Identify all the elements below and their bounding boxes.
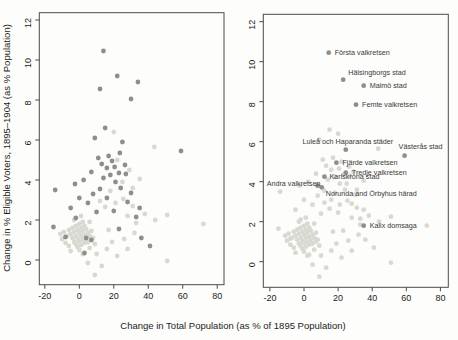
y-tick-label: 4 — [23, 180, 33, 185]
data-point-light — [317, 274, 322, 279]
x-tick-label: 60 — [401, 293, 411, 303]
data-point-light — [314, 230, 319, 235]
data-point-light — [113, 201, 118, 206]
y-tick-label: 6 — [23, 140, 33, 145]
data-point-dark — [117, 171, 122, 176]
data-point-labeled — [402, 153, 407, 158]
data-point-light — [94, 252, 99, 257]
data-point-dark — [99, 162, 104, 167]
data-point-dark — [113, 180, 118, 185]
data-point-dark — [125, 200, 130, 205]
data-point-light — [389, 214, 394, 219]
data-point-light — [312, 247, 317, 252]
data-point-dark — [98, 187, 103, 192]
y-tick-label: 12 — [247, 20, 257, 30]
data-point-light — [331, 155, 336, 160]
data-point-dark — [101, 176, 106, 181]
data-point-light — [121, 197, 126, 202]
data-point-light — [77, 248, 82, 253]
x-axis-title: Change in Total Population (as % of 1895… — [120, 320, 345, 331]
data-point-light — [349, 215, 354, 220]
data-point-dark — [104, 166, 109, 171]
y-tick-label: 0 — [23, 260, 33, 265]
data-point-light — [305, 253, 310, 258]
data-point-light — [324, 265, 329, 270]
data-point-dark — [123, 163, 128, 168]
x-tick-label: 60 — [178, 291, 188, 301]
data-point-dark — [106, 154, 111, 159]
data-point-light — [108, 189, 113, 194]
data-point-light — [317, 243, 322, 248]
data-point-light — [324, 163, 329, 168]
data-point-labeled — [341, 77, 346, 82]
data-point-light — [86, 261, 91, 266]
data-point-light — [152, 145, 157, 150]
data-point-light — [125, 214, 130, 219]
data-point-labeled — [334, 160, 339, 165]
data-point-labeled — [354, 102, 359, 107]
point-label: Fjärde valkretsen — [342, 158, 397, 167]
data-point-dark — [82, 251, 87, 256]
data-point-light — [363, 237, 368, 242]
data-point-dark — [63, 235, 68, 240]
data-point-dark — [86, 201, 91, 206]
data-point-dark — [53, 188, 58, 193]
data-point-light — [322, 200, 327, 205]
data-point-light — [310, 202, 315, 207]
data-point-light — [424, 223, 429, 228]
x-tick-label: 20 — [333, 293, 343, 303]
data-point-light — [376, 146, 381, 151]
data-point-dark — [51, 225, 56, 230]
data-point-light — [127, 168, 132, 173]
data-point-light — [354, 205, 359, 210]
data-point-light — [337, 202, 342, 207]
data-point-dark — [103, 126, 108, 131]
data-point-light — [290, 235, 295, 240]
data-point-light — [115, 158, 120, 163]
data-point-light — [293, 250, 298, 255]
data-point-light — [337, 166, 342, 171]
data-point-dark — [104, 196, 109, 201]
data-point-light — [110, 240, 115, 245]
data-point-light — [122, 237, 127, 242]
data-point-labeled — [322, 174, 327, 179]
data-point-light — [153, 218, 158, 223]
data-point-light — [134, 221, 139, 226]
data-point-dark — [92, 136, 97, 141]
data-point-dark — [73, 216, 78, 221]
data-point-light — [92, 273, 97, 278]
data-point-dark — [84, 236, 89, 241]
data-point-light — [372, 245, 377, 250]
data-point-light — [120, 180, 125, 185]
y-tick-label: 12 — [23, 18, 33, 28]
data-point-labeled — [361, 83, 366, 88]
data-point-light — [142, 212, 147, 217]
data-point-light — [130, 204, 135, 209]
point-label: Västerås stad — [399, 142, 443, 151]
y-tick-label: 4 — [247, 182, 257, 187]
data-point-light — [67, 244, 72, 249]
point-label: Luleå och Haparanda städer — [302, 137, 393, 146]
x-tick-label: -20 — [38, 291, 51, 301]
data-point-dark — [98, 87, 103, 92]
y-axis-title: Change in % Eligible Voters, 1895–1904 (… — [1, 24, 12, 272]
data-point-light — [310, 262, 315, 267]
data-point-dark — [129, 191, 134, 196]
data-point-light — [137, 177, 142, 182]
data-point-light — [312, 221, 317, 226]
point-label: Första valkretsen — [335, 48, 390, 57]
data-point-light — [319, 211, 324, 216]
x-tick-label: 40 — [143, 291, 153, 301]
data-point-light — [337, 181, 342, 186]
data-point-dark — [68, 206, 73, 211]
data-point-light — [291, 245, 296, 250]
data-point-light — [58, 232, 63, 237]
data-point-light — [327, 206, 332, 211]
point-label: Kalix domsaga — [370, 221, 417, 230]
data-point-light — [302, 197, 307, 202]
data-point-light — [349, 201, 354, 206]
data-point-light — [293, 207, 298, 212]
data-point-light — [336, 131, 341, 136]
data-point-light — [132, 231, 137, 236]
y-tick-label: 6 — [247, 142, 257, 147]
